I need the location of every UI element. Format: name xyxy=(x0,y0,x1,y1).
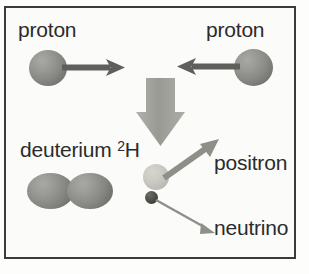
proton-right-motion-arrow xyxy=(177,58,240,75)
label-deuterium-symbol: H xyxy=(125,138,140,161)
positron-emission-arrow xyxy=(164,139,219,178)
label-deuterium-superscript: 2 xyxy=(117,138,125,154)
proton-left-motion-arrow xyxy=(62,59,125,76)
label-positron: positron xyxy=(214,152,287,173)
neutrino-emission-arrow xyxy=(156,200,215,234)
label-neutrino: neutrino xyxy=(214,217,288,238)
figure-container: proton proton deuterium 2H positron neut… xyxy=(0,0,309,274)
label-proton-left: proton xyxy=(18,19,76,40)
label-deuterium: deuterium 2H xyxy=(20,139,140,160)
label-deuterium-word: deuterium xyxy=(20,138,117,161)
fusion-result-arrow xyxy=(136,78,185,146)
label-proton-right: proton xyxy=(206,19,264,40)
